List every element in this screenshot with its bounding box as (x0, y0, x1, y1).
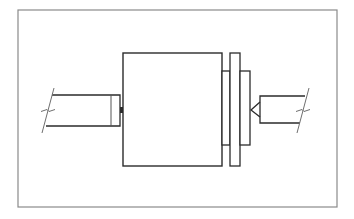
right-shaft (251, 96, 305, 123)
right-break-line (296, 88, 310, 133)
assembly-drawing (0, 0, 354, 219)
main-block (123, 53, 222, 166)
left-shaft (46, 95, 123, 126)
right-collar (240, 71, 250, 145)
right-center-cone (251, 102, 260, 117)
diagram-canvas (0, 0, 354, 219)
flange-plate (230, 53, 240, 166)
left-collar (222, 71, 230, 145)
